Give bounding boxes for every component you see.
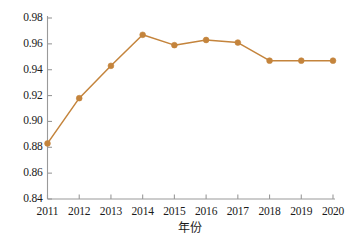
data-point-marker — [108, 63, 114, 69]
y-axis-tick-label: 0.86 — [9, 167, 43, 179]
data-point-marker — [45, 141, 51, 147]
axis-ticks — [48, 18, 334, 199]
y-axis-tick-label: 0.98 — [9, 12, 43, 24]
series-line — [48, 35, 334, 144]
data-point-marker — [298, 58, 304, 64]
data-point-marker — [171, 42, 177, 48]
data-point-marker — [76, 95, 82, 101]
y-axis-tick-label: 0.94 — [9, 64, 43, 76]
data-series-line — [48, 35, 334, 144]
data-point-marker — [203, 37, 209, 43]
data-point-marker — [330, 58, 336, 64]
y-axis-tick-label: 0.84 — [9, 193, 43, 205]
axes — [48, 16, 336, 199]
y-axis-tick-label: 0.88 — [9, 141, 43, 153]
data-point-marker — [140, 32, 146, 38]
x-axis-title: 年份 — [130, 222, 250, 234]
data-point-marker — [235, 40, 241, 46]
y-axis-tick-label: 0.96 — [9, 38, 43, 50]
line-chart: 0.980.960.940.920.900.880.860.84 2011201… — [0, 0, 355, 243]
x-axis-tick-label: 2020 — [313, 206, 353, 218]
y-axis-tick-label: 0.90 — [9, 115, 43, 127]
data-point-marker — [267, 58, 273, 64]
y-axis-tick-label: 0.92 — [9, 90, 43, 102]
